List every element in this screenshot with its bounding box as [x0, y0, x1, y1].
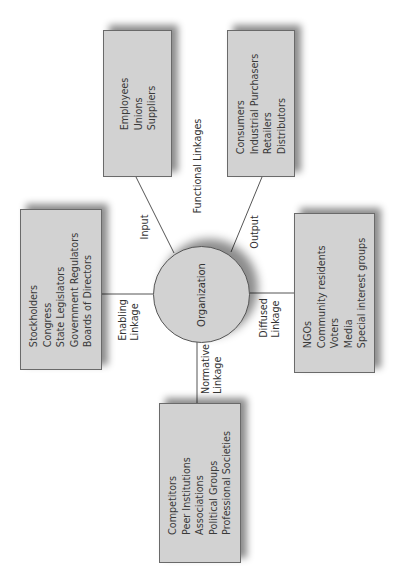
normative-linkage-line2: Linkage: [212, 344, 224, 394]
list-item: State Legislators: [54, 232, 68, 346]
organization-label: Organization: [196, 263, 208, 327]
enabling-linkage-line2: Linkage: [129, 299, 141, 341]
list-item: NGOs: [301, 238, 315, 348]
list-item: Consumers: [234, 53, 248, 154]
enabling-stakeholder-box: Stockholders Congress State Legislators …: [20, 209, 102, 370]
enabling-linkage-label: Enabling Linkage: [117, 299, 141, 341]
list-item: Competitors: [166, 431, 180, 535]
organization-node: Organization: [153, 246, 250, 343]
diffused-stakeholder-box: NGOs Community residents Voters Media Sp…: [294, 213, 375, 373]
output-stakeholder-box: Consumers Industrial Purchasers Retailer…: [227, 30, 295, 177]
list-item: Voters: [328, 238, 342, 348]
diffused-linkage-line1: Diffused: [258, 298, 270, 338]
list-item: Political Groups: [207, 431, 221, 535]
list-item: Suppliers: [144, 77, 158, 130]
enabling-linkage-line1: Enabling: [117, 299, 129, 341]
list-item: Media: [341, 238, 355, 348]
list-item: Boards of Directors: [81, 232, 95, 346]
output-label: Output: [249, 215, 261, 248]
normative-linkage-line1: Normative: [200, 344, 212, 394]
normative-linkage-label: Normative Linkage: [200, 344, 224, 394]
list-item: Professional Societies: [220, 431, 234, 535]
list-item: Congress: [41, 232, 55, 346]
list-item: Government Regulators: [68, 232, 82, 346]
diffused-linkage-line2: Linkage: [270, 298, 282, 338]
diffused-stakeholder-list: NGOs Community residents Voters Media Sp…: [301, 238, 369, 348]
input-stakeholder-list: Employees Unions Suppliers: [117, 77, 158, 130]
list-item: Distributors: [275, 53, 289, 154]
list-item: Employees: [117, 77, 131, 130]
output-stakeholder-list: Consumers Industrial Purchasers Retailer…: [234, 53, 288, 154]
list-item: Peer Institutions: [180, 431, 194, 535]
list-item: Unions: [131, 77, 145, 130]
input-label: Input: [139, 215, 151, 240]
normative-stakeholder-box: Competitors Peer Institutions Associatio…: [159, 403, 241, 563]
list-item: Stockholders: [27, 232, 41, 346]
enabling-stakeholder-list: Stockholders Congress State Legislators …: [27, 232, 95, 346]
list-item: Industrial Purchasers: [247, 53, 261, 154]
list-item: Retailers: [261, 53, 275, 154]
list-item: Community residents: [314, 238, 328, 348]
list-item: Special interest groups: [355, 238, 369, 348]
input-stakeholder-box: Employees Unions Suppliers: [103, 30, 172, 177]
normative-stakeholder-list: Competitors Peer Institutions Associatio…: [166, 431, 234, 535]
list-item: Associations: [193, 431, 207, 535]
functional-linkages-label: Functional Linkages: [192, 119, 204, 214]
diffused-linkage-label: Diffused Linkage: [258, 298, 282, 338]
